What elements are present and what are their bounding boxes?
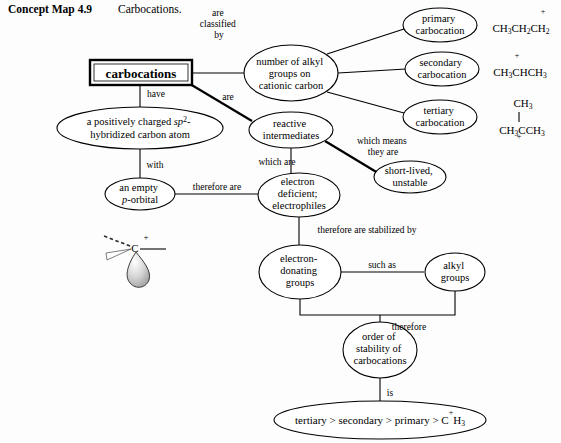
- formula-tertiary-charge: +: [517, 132, 522, 141]
- node-positively-charged[interactable]: a positively charged sp2- hybridized car…: [57, 107, 223, 149]
- edge-classification-to-secondary: [338, 69, 406, 73]
- node-alkyl-groups[interactable]: alkyl groups: [425, 253, 485, 291]
- secondary-carbocation-label: secondary carbocation: [418, 57, 468, 80]
- node-short-lived[interactable]: short-lived, unstable: [374, 161, 446, 193]
- formula-secondary-charge: +: [515, 51, 520, 60]
- primary-carbocation-label: primary carbocation: [416, 13, 466, 36]
- edge-classification-to-primary: [327, 29, 404, 54]
- node-primary-carbocation[interactable]: primary carbocation: [403, 8, 477, 42]
- link-label-therefore: therefore: [392, 322, 426, 332]
- node-electron-donating[interactable]: electron- donating groups: [259, 245, 341, 299]
- alkyl-groups-label: alkyl groups: [441, 260, 470, 283]
- p-orbital-lobe: [127, 252, 149, 287]
- formula-primary-charge: +: [541, 7, 546, 16]
- dashed-bond: [104, 236, 130, 246]
- formula-primary: CH3CH2CH2: [492, 22, 549, 36]
- formula-tertiary-top: CH3: [513, 97, 532, 111]
- empty-p-orbital-label: an empty p-orbital: [119, 182, 160, 205]
- node-empty-p-orbital[interactable]: an empty p-orbital: [105, 178, 175, 210]
- link-label-is: is: [387, 388, 394, 398]
- formula-secondary: CH3CHCH3: [493, 66, 547, 80]
- link-label-have: have: [147, 89, 165, 99]
- link-label-therefore-are-stabilized-by: therefore are stabilized by: [318, 225, 417, 235]
- node-electron-deficient[interactable]: electron deficient; electrophiles: [258, 173, 340, 217]
- link-label-are-classified-by: are classified by: [200, 8, 238, 40]
- node-secondary-carbocation[interactable]: secondary carbocation: [405, 52, 479, 86]
- formula-tertiary-bottom: CH3CCH3: [499, 124, 545, 138]
- concept-map-page: Concept Map 4.9Carbocations.: [0, 0, 561, 443]
- orbital-carbon-label: C: [131, 242, 138, 254]
- carbocations-label: carbocations: [106, 66, 177, 81]
- node-classification[interactable]: number of alkyl groups on cationic carbo…: [244, 45, 338, 101]
- wedge-bond: [106, 249, 131, 260]
- link-label-which-means-they-are: which means they are: [357, 136, 409, 157]
- link-label-are: are: [222, 92, 234, 102]
- node-tertiary-carbocation[interactable]: tertiary carbocation: [403, 100, 477, 134]
- edge-classification-to-tertiary: [327, 92, 404, 113]
- node-stability-order[interactable]: tertiary > secondary > primary > C+H3: [274, 401, 486, 439]
- link-label-therefore-are: therefore are: [193, 182, 241, 192]
- node-reactive-intermediates[interactable]: reactive intermediates: [249, 112, 333, 148]
- link-label-with: with: [147, 160, 164, 170]
- link-label-such-as: such as: [368, 260, 396, 270]
- carbocation-orbital-sketch: C +: [104, 232, 166, 287]
- concept-map-diagram: carbocations number of alkyl groups on c…: [0, 0, 561, 443]
- electron-donating-label: electron- donating groups: [280, 253, 320, 288]
- positively-charged-ellipse: [57, 107, 223, 149]
- orbital-charge-label: +: [143, 232, 148, 242]
- node-carbocations[interactable]: carbocations: [90, 60, 192, 85]
- link-label-which-are: which are: [258, 157, 295, 167]
- formula-group: CH3CH2CH2 + CH3CHCH3 + CH3 CH3CCH3 +: [492, 7, 549, 141]
